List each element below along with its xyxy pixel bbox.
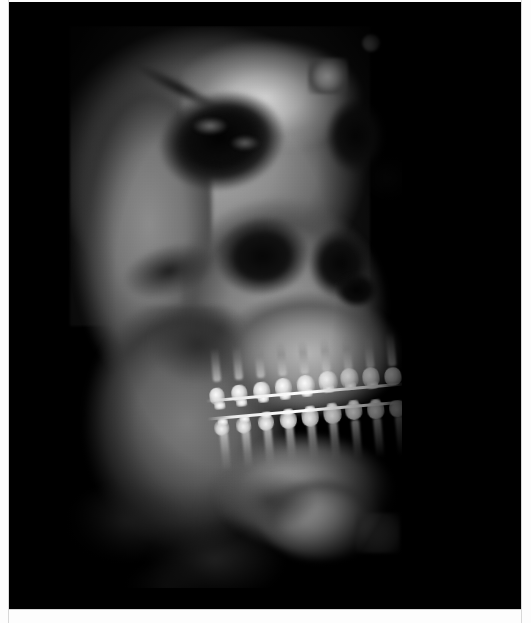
lower-tooth-root <box>242 429 253 470</box>
high-density-marker <box>362 34 380 52</box>
lower-tooth-root <box>285 425 296 466</box>
lower-tooth-root <box>307 423 318 464</box>
scan-page <box>0 0 531 623</box>
submandibular-soft-tissue <box>70 462 320 588</box>
chin-highlight <box>356 513 400 553</box>
supraorbital-highlight <box>308 58 348 94</box>
page-left-seam <box>8 0 9 623</box>
orbit-internal-detail <box>190 114 230 138</box>
skull-volume-rendering <box>62 26 402 588</box>
lower-tooth-root <box>329 421 340 462</box>
dentition-with-braces <box>198 357 402 485</box>
lower-tooth-root <box>351 419 362 460</box>
page-right-seam <box>521 0 522 623</box>
left-orbital-rim-cavity <box>316 80 402 220</box>
lower-tooth-root <box>373 418 384 459</box>
ct-volume-viewer[interactable] <box>9 2 521 610</box>
lower-tooth-root <box>395 416 402 457</box>
piriform-aperture-shadow <box>330 266 386 314</box>
orthodontic-bracket-upper <box>214 401 226 410</box>
lower-tooth-root <box>220 431 231 472</box>
lower-tooth-root <box>263 427 274 468</box>
orbit-internal-detail <box>228 132 262 154</box>
page-bottom-seam <box>8 609 522 610</box>
